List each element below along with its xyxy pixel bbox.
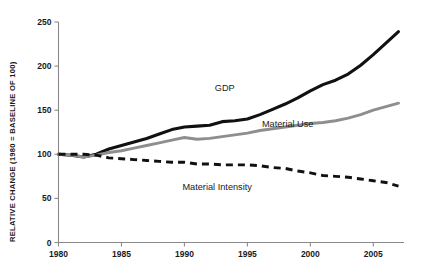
y-tick-label: 200: [37, 61, 51, 71]
y-tick-label: 250: [37, 17, 51, 27]
x-tick-label: 1990: [175, 249, 194, 259]
x-tick-label: 2005: [364, 249, 383, 259]
x-tick-label: 1980: [49, 249, 68, 259]
y-tick-label: 100: [37, 149, 51, 159]
y-axis-ticks: 050100150200250: [37, 17, 58, 248]
x-tick-label: 1995: [238, 249, 257, 259]
series-label-gdp: GDP: [215, 83, 235, 93]
y-tick-label: 50: [42, 193, 52, 203]
series-line-gdp: [59, 32, 399, 157]
y-tick-label: 0: [47, 238, 52, 248]
y-axis-title: RELATIVE CHANGE (1980 = BASELINE OF 100): [8, 61, 17, 242]
x-tick-label: 1985: [112, 249, 131, 259]
x-axis-ticks: 198019851990199520002005: [49, 243, 383, 259]
y-tick-label: 150: [37, 105, 51, 115]
x-tick-label: 2000: [301, 249, 320, 259]
chart-container: 050100150200250 198019851990199520002005…: [0, 0, 422, 278]
series-label-material-use: Material Use: [262, 119, 314, 129]
line-chart: 050100150200250 198019851990199520002005…: [0, 0, 422, 278]
series-label-material-intensity: Material Intensity: [182, 182, 252, 192]
